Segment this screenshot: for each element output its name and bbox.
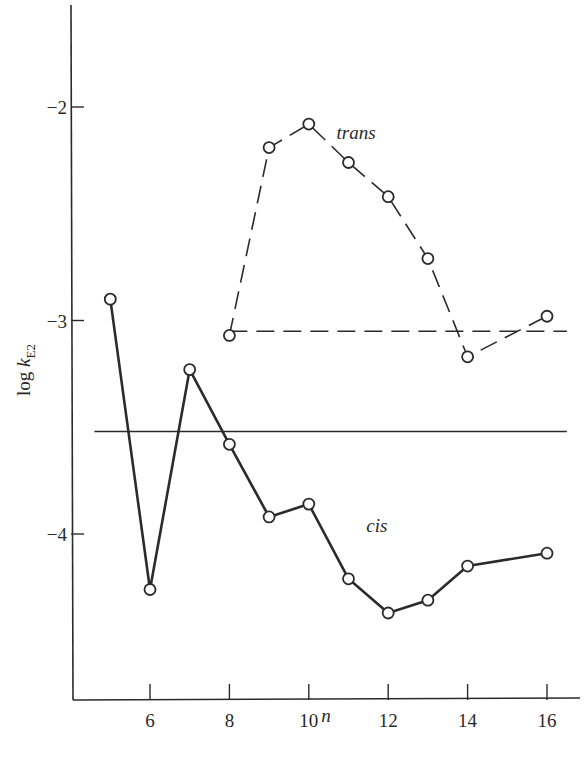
x-tick-label: 8	[225, 710, 235, 731]
cis-data-point	[264, 511, 275, 522]
cis-data-point	[145, 584, 156, 595]
trans-data-point	[264, 142, 275, 153]
y-axis-label-log: log	[13, 367, 34, 396]
cis-data-point	[383, 607, 394, 618]
x-axis-line	[73, 698, 580, 700]
chart: 6810121416−2−3−4 transcis n log kE2	[0, 0, 585, 758]
trans-data-point	[343, 157, 354, 168]
x-tick-label: 12	[379, 710, 398, 731]
y-axis-line	[71, 5, 73, 700]
x-tick-label: 16	[538, 710, 557, 731]
trans-data-point	[303, 119, 314, 130]
cis-series-line	[110, 299, 547, 613]
y-axis-label: log kE2	[13, 344, 38, 396]
cis-data-point	[303, 499, 314, 510]
cis-data-point	[422, 595, 433, 606]
cis-data-point	[105, 294, 116, 305]
x-axis-label: n	[321, 705, 331, 726]
cis-series-label: cis	[366, 515, 387, 536]
trans-data-point	[224, 330, 235, 341]
axes: 6810121416−2−3−4	[47, 5, 580, 731]
labels: transcis	[337, 122, 388, 536]
series	[110, 124, 547, 613]
x-tick-label: 14	[458, 710, 478, 731]
reference-lines	[94, 331, 566, 431]
trans-data-point	[422, 253, 433, 264]
y-tick-label: −3	[47, 311, 67, 332]
cis-data-point	[542, 548, 553, 559]
trans-data-point	[542, 311, 553, 322]
x-tick-label: 6	[145, 710, 155, 731]
cis-data-point	[343, 573, 354, 584]
cis-data-point	[224, 439, 235, 450]
cis-data-point	[462, 561, 473, 572]
trans-data-point	[462, 351, 473, 362]
x-tick-label: 10	[299, 710, 318, 731]
trans-data-point	[383, 191, 394, 202]
y-tick-label: −4	[47, 524, 68, 545]
y-tick-label: −2	[47, 97, 67, 118]
cis-data-point	[184, 364, 195, 375]
y-axis-label-subscript: E2	[23, 344, 38, 358]
trans-series-line	[229, 124, 547, 357]
trans-series-label: trans	[337, 122, 376, 143]
